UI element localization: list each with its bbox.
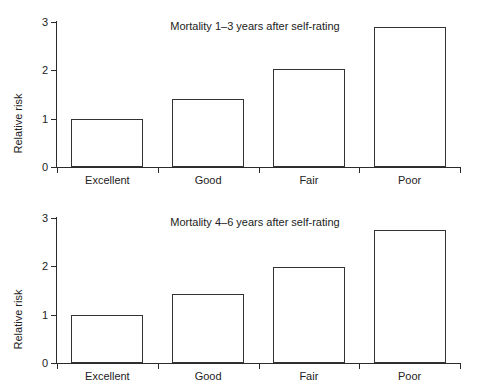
x-axis-category-label: Excellent (57, 174, 157, 186)
x-axis-category-label: Excellent (57, 370, 157, 382)
y-axis-tick (51, 218, 57, 219)
bar-excellent (71, 119, 143, 167)
x-axis-category-label: Good (158, 370, 258, 382)
chart-panel-mortality-1-3-years: Mortality 1–3 years after self-rating Re… (0, 0, 480, 196)
bar-poor (374, 230, 446, 363)
y-axis-title: Relative risk (13, 290, 24, 350)
x-axis-tick (57, 363, 58, 369)
bar-good (172, 99, 244, 167)
chart-title: Mortality 4–6 years after self-rating (110, 216, 400, 228)
chart-title: Mortality 1–3 years after self-rating (110, 20, 400, 32)
y-axis-tick-label: 2 (36, 261, 48, 272)
y-axis-tick-label: 3 (36, 213, 48, 224)
bar-poor (374, 27, 446, 167)
x-axis-tick (460, 363, 461, 369)
x-axis-category-label: Fair (259, 370, 359, 382)
x-axis-tick (460, 167, 461, 173)
y-axis-tick (51, 266, 57, 267)
x-axis-tick (158, 167, 159, 173)
y-axis-tick (51, 119, 57, 120)
x-axis-tick (259, 167, 260, 173)
x-axis-tick (259, 363, 260, 369)
x-axis-category-label: Fair (259, 174, 359, 186)
y-axis-tick-label: 1 (36, 310, 48, 321)
x-axis-category-label: Poor (360, 370, 460, 382)
y-axis-tick (51, 22, 57, 23)
x-axis-category-label: Good (158, 174, 258, 186)
chart-panel-mortality-4-6-years: Mortality 4–6 years after self-rating Re… (0, 196, 480, 392)
y-axis-tick-label: 0 (36, 162, 48, 173)
y-axis-tick (51, 315, 57, 316)
bar-fair (273, 267, 345, 363)
y-axis-line (56, 217, 57, 364)
x-axis-category-label: Poor (360, 174, 460, 186)
bar-excellent (71, 315, 143, 363)
y-axis-line (56, 21, 57, 168)
y-axis-tick-label: 0 (36, 358, 48, 369)
y-axis-tick-label: 3 (36, 17, 48, 28)
x-axis-tick (359, 363, 360, 369)
bar-good (172, 294, 244, 363)
mortality-self-rating-figure: Mortality 1–3 years after self-rating Re… (0, 0, 480, 392)
y-axis-tick-label: 2 (36, 65, 48, 76)
x-axis-tick (359, 167, 360, 173)
bar-fair (273, 69, 345, 167)
x-axis-tick (158, 363, 159, 369)
y-axis-title: Relative risk (13, 94, 24, 154)
y-axis-tick (51, 70, 57, 71)
y-axis-tick-label: 1 (36, 114, 48, 125)
x-axis-tick (57, 167, 58, 173)
